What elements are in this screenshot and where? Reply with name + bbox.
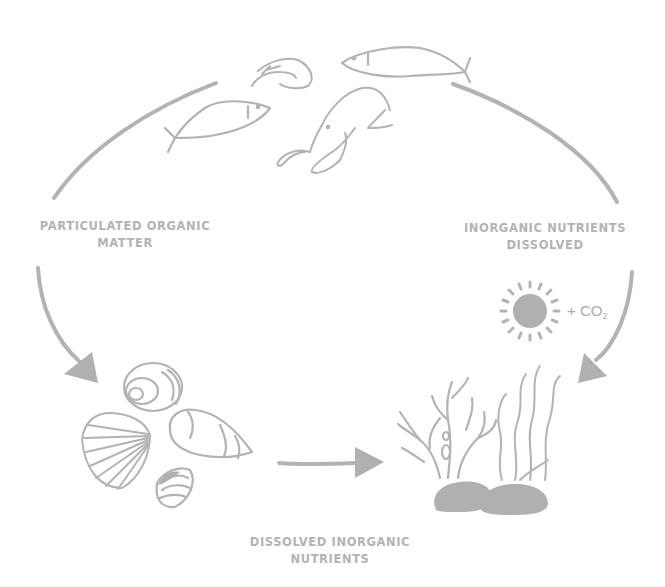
cycle-arc-right-upper [453,84,617,202]
conch-shell-icon [170,410,252,458]
label-line: PARTICULATED ORGANIC [30,218,220,235]
sun-icon [501,282,559,340]
flow-arrow-bottom [279,463,358,464]
label-line: DISSOLVED INORGANIC [240,534,420,551]
co2-prefix: + CO [567,302,602,319]
rock-icon [434,482,548,515]
label-line: MATTER [30,235,220,252]
label-line: NUTRIENTS [240,551,420,568]
cycle-arc-left-upper [54,83,216,198]
fish-icon [342,47,470,82]
snail-shell-icon [124,363,182,411]
label-dissolved-inorganic-nutrients: DISSOLVED INORGANIC NUTRIENTS [240,534,420,568]
label-inorganic-nutrients-dissolved: INORGANIC NUTRIENTS DISSOLVED [455,220,635,254]
scallop-shell-icon [82,413,150,489]
co2-subscript: 2 [602,311,607,321]
seaweed-icon [498,366,560,480]
coral-icon [398,378,496,478]
shrimp-icon [252,59,312,88]
co2-label: + CO2 [567,302,607,321]
cycle-arc-left-lower [38,268,80,362]
nutrient-cycle-diagram [0,0,665,587]
arrowhead-left [64,352,98,383]
label-line: DISSOLVED [455,237,635,254]
label-line: INORGANIC NUTRIENTS [455,220,635,237]
arrowhead-right [578,353,607,383]
label-particulate-organic-matter: PARTICULATED ORGANIC MATTER [30,218,220,252]
fish-icon [165,101,270,152]
arrowhead-bottom [355,447,384,478]
lobster-icon [277,88,392,173]
